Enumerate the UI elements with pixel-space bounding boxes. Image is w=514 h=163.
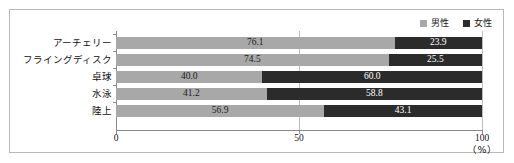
bar-segment-female: 60.0 (262, 71, 482, 83)
bar-value-label: 60.0 (364, 72, 381, 82)
bar-segment-male: 56.9 (116, 105, 324, 117)
bar-segment-female: 43.1 (324, 105, 482, 117)
bar-value-label: 43.1 (395, 106, 412, 116)
bar-row: 74.525.5 (116, 54, 482, 66)
legend-entry-male: 男性 (420, 19, 449, 28)
bar-row: 40.060.0 (116, 71, 482, 83)
x-tick-label-50: 50 (294, 134, 304, 144)
bar-segment-female: 25.5 (389, 54, 482, 66)
bar-row: 76.123.9 (116, 37, 482, 49)
bar-row: 56.943.1 (116, 105, 482, 117)
stacked-bar: 76.123.9 (116, 37, 482, 49)
category-label-5: 陸上 (92, 106, 112, 116)
chart-legend: 男性 女性 (420, 17, 492, 29)
legend-label-female: 女性 (474, 19, 492, 28)
legend-entry-female: 女性 (463, 19, 492, 28)
bar-value-label: 25.5 (427, 55, 444, 65)
bar-segment-male: 40.0 (116, 71, 262, 83)
x-tick-label-100: 100 (475, 134, 489, 144)
stacked-bar: 41.258.8 (116, 88, 482, 100)
stacked-bar: 40.060.0 (116, 71, 482, 83)
square-marker-female-icon (463, 20, 470, 27)
bar-row: 41.258.8 (116, 88, 482, 100)
category-label-4: 水泳 (92, 89, 112, 99)
bar-value-label: 58.8 (366, 89, 383, 99)
bar-value-label: 76.1 (247, 38, 264, 48)
category-label-1: アーチェリー (53, 38, 112, 48)
bar-segment-female: 23.9 (395, 37, 482, 49)
bar-value-label: 41.2 (183, 89, 200, 99)
plot-area: 76.123.974.525.540.060.041.258.856.943.1 (116, 33, 482, 130)
bar-segment-female: 58.8 (267, 88, 482, 100)
bar-value-label: 40.0 (181, 72, 198, 82)
bar-value-label: 56.9 (212, 106, 229, 116)
bar-segment-male: 74.5 (116, 54, 389, 66)
chart-figure: 男性 女性 アーチェリーフライングディスク卓球水泳陸上 76.123.974.5… (0, 0, 514, 163)
stacked-bar: 56.943.1 (116, 105, 482, 117)
category-label-2: フライングディスク (23, 55, 112, 65)
square-marker-male-icon (420, 20, 427, 27)
x-tick-label-0: 0 (114, 134, 119, 144)
legend-label-male: 男性 (431, 19, 449, 28)
bar-segment-male: 76.1 (116, 37, 395, 49)
category-label-3: 卓球 (92, 72, 112, 82)
gridline-100 (482, 31, 483, 131)
bar-segment-male: 41.2 (116, 88, 267, 100)
bar-value-label: 74.5 (244, 55, 261, 65)
bar-value-label: 23.9 (430, 38, 447, 48)
axis-unit-label: （%） (467, 145, 496, 155)
stacked-bar: 74.525.5 (116, 54, 482, 66)
